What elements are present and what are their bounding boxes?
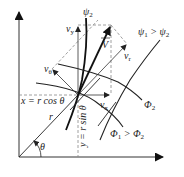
normal-line [70, 78, 100, 110]
phi-relation-label: Φ1 > Φ2 [110, 128, 145, 141]
vtheta-to-V-dashed [52, 20, 98, 69]
vr-label: vr [124, 50, 131, 63]
vtheta-label: vθ [44, 63, 52, 76]
psi-relation-label: ψ1 > ψ2 [138, 26, 170, 39]
V-to-vr-dashed [111, 25, 127, 44]
x-equation: x = r cos θ [20, 95, 64, 106]
velocity-diagram: r θ x = r cos θ y = r sin θ ψ2 ψ1 > ψ2 Φ… [0, 0, 184, 177]
radius-label: r [49, 111, 53, 122]
psi2-label: ψ2 [83, 6, 93, 19]
vy-label: vy [66, 23, 74, 36]
vtheta-vector [53, 70, 78, 95]
y-equation: y = r sin θ [77, 105, 88, 148]
V-label: V [102, 39, 110, 50]
vx-label: vx [100, 99, 108, 112]
theta-label: θ [40, 141, 45, 152]
phi2-label: Φ2 [144, 99, 156, 112]
